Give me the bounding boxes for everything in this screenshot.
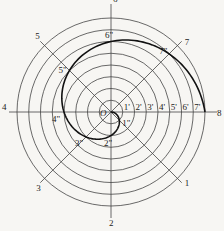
spiral-point-label-6: 6" (105, 30, 114, 40)
division-label-7: 7' (194, 102, 201, 112)
spiral-point-label-7: 7" (159, 46, 168, 56)
division-label-1: 1' (124, 102, 131, 112)
ray-label-8: 8 (217, 108, 222, 118)
spiral-point-label-1: 1" (122, 118, 131, 128)
ray-label-7: 7 (185, 37, 190, 47)
division-label-6: 6' (183, 102, 190, 112)
division-label-3: 3' (147, 102, 154, 112)
spiral-diagram: 123456781'2'3'4'5'6'7'1"2"3"4"5"6"7"O (0, 0, 224, 231)
center-label: O (100, 108, 107, 118)
spiral-point-label-4: 4" (52, 114, 61, 124)
ray-label-1: 1 (185, 178, 190, 188)
division-label-5: 5' (171, 102, 178, 112)
spiral-point-label-3: 3" (75, 138, 84, 148)
division-label-4: 4' (159, 102, 166, 112)
division-label-2: 2' (136, 102, 143, 112)
ray-label-3: 3 (36, 183, 41, 193)
ray-label-5: 5 (35, 31, 40, 41)
spiral-point-label-5: 5" (59, 65, 68, 75)
labels: 123456781'2'3'4'5'6'7'1"2"3"4"5"6"7"O (2, 0, 222, 228)
ray-label-6: 6 (113, 0, 118, 4)
ray-label-2: 2 (109, 218, 114, 228)
ray-label-4: 4 (2, 102, 7, 112)
spiral-point-label-2: 2" (104, 138, 113, 148)
